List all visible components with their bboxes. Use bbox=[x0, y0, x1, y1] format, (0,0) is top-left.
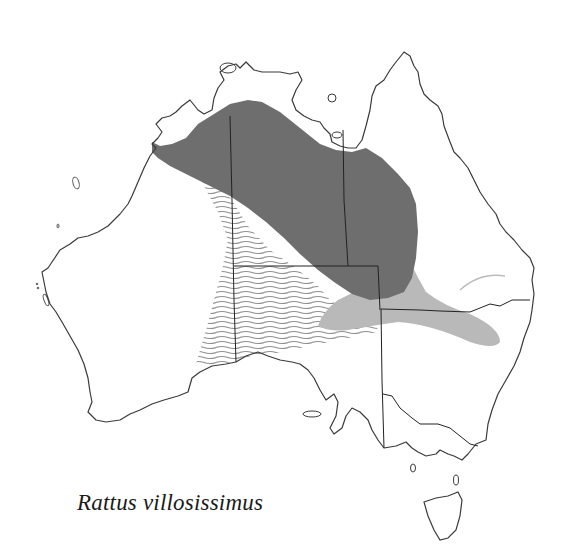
tasmania-coastline bbox=[424, 492, 462, 540]
king-island bbox=[411, 464, 416, 472]
sa-nsw-vic-border bbox=[381, 309, 384, 448]
nsw-vic-border bbox=[383, 394, 478, 446]
faint-marks-east bbox=[460, 275, 505, 290]
australia-distribution-map bbox=[0, 0, 568, 560]
australia-coastline bbox=[42, 52, 534, 460]
species-name-label: Rattus villosissimus bbox=[77, 490, 263, 516]
melville-island bbox=[220, 63, 236, 73]
flinders-island bbox=[454, 475, 459, 485]
mornington-island bbox=[332, 132, 342, 138]
kangaroo-island bbox=[303, 411, 321, 417]
groote-island bbox=[328, 94, 336, 102]
